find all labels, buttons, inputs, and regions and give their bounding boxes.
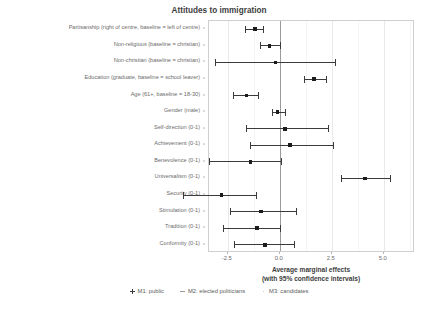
ci-cap-lower [304, 76, 305, 83]
y-axis-labels: Partisanship (right of centre, baseline … [0, 20, 205, 252]
y-axis-tick-label: Gender (male) [164, 108, 200, 114]
blank-marker-icon [261, 289, 266, 294]
legend-label: M3: candidates [269, 288, 308, 294]
plot-area [209, 21, 413, 251]
ci-cap-upper [326, 76, 327, 83]
ci-cap-upper [333, 142, 334, 149]
ci-cap-lower [209, 158, 210, 165]
ci-cap-upper [281, 158, 282, 165]
zero-reference-line [280, 21, 281, 251]
gridline-minor [410, 21, 411, 251]
legend: M1: publicM2: elected politiciansM3: can… [0, 288, 438, 294]
y-axis-tick-mark [203, 111, 205, 112]
ci-cap-lower [246, 125, 247, 132]
y-axis-tick-label: Achievement (0-1) [154, 141, 200, 147]
ci-cap-upper [294, 241, 295, 248]
ci-cap-upper [390, 175, 391, 182]
legend-item[interactable]: M3: candidates [261, 288, 308, 294]
x-axis-title: Average marginal effects (with 95% confi… [208, 266, 414, 284]
y-axis-tick-mark [203, 127, 205, 128]
x-axis-tick-label: 0.0 [275, 255, 283, 261]
y-axis-tick-mark [203, 227, 205, 228]
ci-cap-lower [233, 92, 234, 99]
y-axis-tick-label: Partisanship (right of centre, baseline … [69, 25, 200, 31]
ci-cap-upper [335, 59, 336, 66]
ci-cap-upper [263, 26, 264, 33]
x-axis-tick-mark [279, 252, 280, 254]
gridline-minor [254, 21, 255, 251]
y-axis-tick-label: Conformity (0-1) [160, 241, 200, 247]
confidence-interval-bar [246, 128, 327, 129]
estimate-point [220, 193, 224, 197]
y-axis-tick-label: Self-direction (0-1) [154, 125, 200, 131]
x-axis-title-line1: Average marginal effects [272, 266, 350, 273]
estimate-point [312, 77, 316, 81]
legend-label: M1: public [138, 288, 164, 294]
legend-item[interactable]: M1: public [130, 288, 164, 294]
ci-cap-upper [296, 208, 297, 215]
estimate-point [288, 143, 292, 147]
gridline-major [228, 21, 229, 251]
y-axis-tick-mark [203, 243, 205, 244]
estimate-point [363, 177, 367, 181]
estimate-point [259, 210, 263, 214]
ci-cap-lower [230, 208, 231, 215]
estimate-point [255, 226, 259, 230]
ci-cap-upper [285, 109, 286, 116]
legend-label: M2: elected politicians [188, 288, 245, 294]
estimate-point [253, 27, 257, 31]
ci-cap-lower [223, 225, 224, 232]
y-axis-tick-label: Non-religious (baseline = christian) [114, 42, 200, 48]
ci-cap-lower [260, 42, 261, 49]
ci-cap-lower [215, 59, 216, 66]
estimate-point [283, 127, 287, 131]
y-axis-tick-label: Benevolence (0-1) [154, 158, 200, 164]
y-axis-tick-mark [203, 210, 205, 211]
estimate-point [245, 94, 249, 98]
y-axis-tick-label: Stimulation (0-1) [159, 208, 200, 214]
confidence-interval-bar [223, 228, 280, 229]
confidence-interval-bar [209, 161, 281, 162]
ci-cap-lower [272, 109, 273, 116]
ci-cap-upper [280, 225, 281, 232]
dash-marker-icon [180, 289, 185, 294]
y-axis-tick-mark [203, 61, 205, 62]
forest-plot-figure: Attitudes to immigration Partisanship (r… [0, 0, 438, 310]
x-axis-tick-label: -2.5 [222, 255, 232, 261]
y-axis-tick-label: Non-christian (baseline = christian) [114, 59, 200, 65]
confidence-interval-bar [230, 211, 297, 212]
x-axis-tick-mark [383, 252, 384, 254]
y-axis-tick-mark [203, 177, 205, 178]
ci-cap-upper [328, 125, 329, 132]
ci-cap-lower [250, 142, 251, 149]
y-axis-tick-label: Universalism (0-1) [155, 175, 200, 181]
y-axis-tick-label: Tradition (0-1) [165, 224, 200, 230]
plus-marker-icon [130, 289, 135, 294]
x-axis-tick-mark [227, 252, 228, 254]
y-axis-tick-mark [203, 78, 205, 79]
gridline-minor [358, 21, 359, 251]
y-axis-tick-mark [203, 94, 205, 95]
y-axis-tick-mark [203, 44, 205, 45]
y-axis-tick-label: Education (graduate, baseline = school l… [84, 75, 200, 81]
ci-cap-lower [341, 175, 342, 182]
x-axis-title-line2: (with 95% confidence intervals) [208, 275, 414, 284]
gridline-minor [306, 21, 307, 251]
ci-cap-lower [245, 26, 246, 33]
estimate-point [274, 61, 278, 65]
y-axis-tick-mark [203, 160, 205, 161]
y-axis-tick-mark [203, 28, 205, 29]
estimate-point [276, 110, 280, 114]
y-axis-tick-label: Age (61+, baseline = 18-30) [131, 92, 200, 98]
x-axis-tick-label: 5.0 [379, 255, 387, 261]
x-axis-tick-label: 2.5 [327, 255, 335, 261]
y-axis-tick-mark [203, 144, 205, 145]
gridline-major [332, 21, 333, 251]
ci-cap-upper [258, 92, 259, 99]
ci-cap-lower [234, 241, 235, 248]
gridline-major [384, 21, 385, 251]
ci-cap-upper [280, 42, 281, 49]
legend-item[interactable]: M2: elected politicians [180, 288, 245, 294]
estimate-point [249, 160, 253, 164]
ci-cap-upper [256, 192, 257, 199]
